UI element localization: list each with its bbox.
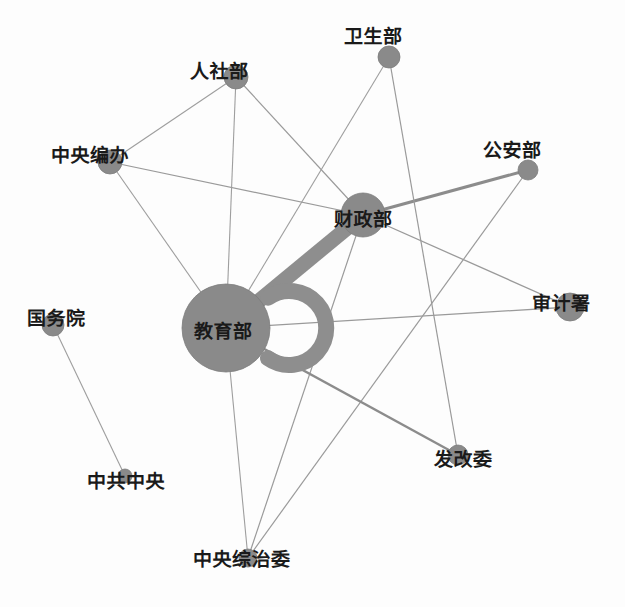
graph-edge[interactable]	[236, 77, 363, 215]
graph-node-guowuyuan[interactable]	[42, 314, 64, 336]
graph-node-jiaoyub[interactable]	[182, 284, 270, 372]
graph-edge[interactable]	[389, 57, 458, 455]
graph-edge[interactable]	[53, 325, 125, 476]
graph-node-fagaiwei[interactable]	[448, 445, 468, 465]
graph-node-rensheb[interactable]	[224, 65, 248, 89]
self-loop-layer	[268, 291, 326, 365]
network-graph-canvas: 人社部卫生部中央编办公安部财政部审计署教育部国务院中共中央发改委中央综治委	[0, 0, 625, 607]
graph-node-shenjis[interactable]	[556, 293, 584, 321]
graph-edge[interactable]	[110, 77, 236, 162]
graph-edge[interactable]	[363, 215, 570, 307]
graph-edge[interactable]	[363, 170, 528, 215]
graph-node-caizhengb[interactable]	[341, 193, 385, 237]
graph-edge[interactable]	[110, 162, 363, 215]
graph-node-zyzongzhi[interactable]	[239, 549, 257, 567]
graph-self-loop[interactable]	[268, 291, 326, 365]
graph-node-zgzhongy[interactable]	[118, 469, 132, 483]
graph-node-weishengb[interactable]	[378, 46, 400, 68]
graph-edge[interactable]	[226, 307, 570, 328]
graph-svg	[0, 0, 625, 607]
graph-node-zybanb[interactable]	[98, 150, 122, 174]
graph-node-gonganb[interactable]	[518, 160, 538, 180]
